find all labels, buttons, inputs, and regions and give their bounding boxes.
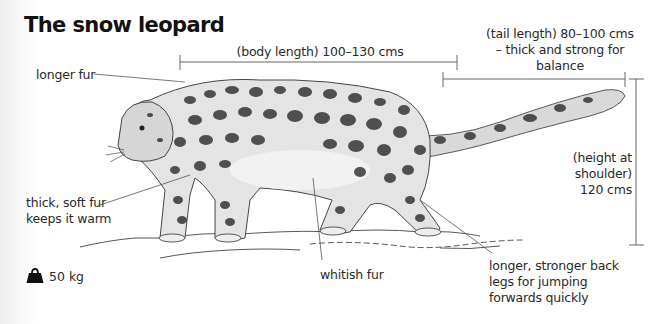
whitish-fur-label: whitish fur xyxy=(320,267,384,283)
head xyxy=(118,102,173,162)
weight-icon xyxy=(26,268,44,284)
longer-fur-label: longer fur xyxy=(36,67,95,83)
body-length-label: (body length) 100–130 cms xyxy=(220,44,420,60)
height-label: (height at shoulder) 120 cms xyxy=(560,150,632,198)
weight-info: 50 kg xyxy=(26,268,84,284)
weight-value: 50 kg xyxy=(49,269,84,284)
ground-lines xyxy=(80,230,525,258)
tail-length-label: (tail length) 80–100 cms – thick and str… xyxy=(480,26,640,74)
back-legs-label: longer, stronger back legs for jumping f… xyxy=(489,258,619,306)
thick-fur-label: thick, soft fur keeps it warm xyxy=(26,195,111,227)
